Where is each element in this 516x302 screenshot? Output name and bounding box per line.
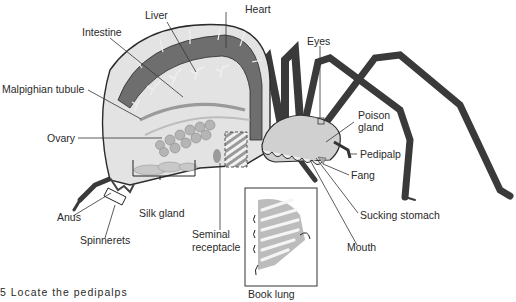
label-heart: Heart [245, 4, 271, 15]
label-seminal-receptacle-line2: receptacle [192, 242, 240, 253]
label-pedipalp: Pedipalp [360, 149, 401, 160]
label-liver: Liver [145, 10, 168, 21]
label-intestine: Intestine [82, 27, 122, 38]
cephalothorax [262, 115, 350, 165]
label-seminal-receptacle-line1: Seminal [192, 229, 230, 240]
book-lung-region [225, 132, 247, 167]
book-lung-inset [245, 188, 317, 286]
label-poison-gland-line1: Poison [358, 110, 390, 121]
label-book-lung: Book lung [248, 289, 295, 300]
label-eyes: Eyes [307, 36, 330, 47]
label-anus: Anus [57, 212, 81, 223]
label-ovary: Ovary [47, 133, 75, 144]
caption-fragment: 5 Locate the pedipalps [0, 286, 128, 298]
label-silk-gland: Silk gland [139, 208, 185, 219]
label-mouth: Mouth [347, 242, 376, 253]
spider-anatomy-diagram: Heart Liver Intestine Eyes Malpighian tu… [0, 0, 516, 302]
label-poison-gland-line2: gland [358, 122, 384, 133]
label-malpighian-tubule: Malpighian tubule [2, 84, 84, 95]
spider-illustration [0, 0, 516, 302]
label-sucking-stomach: Sucking stomach [360, 210, 440, 221]
label-spinnerets: Spinnerets [80, 235, 130, 246]
label-fang: Fang [351, 170, 375, 181]
